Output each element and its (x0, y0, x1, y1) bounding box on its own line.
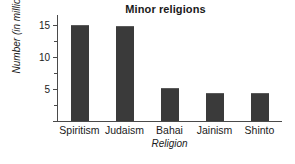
chart-title: Minor religions (0, 3, 295, 15)
x-axis-tick-label: Bahai (156, 124, 183, 136)
y-axis-line (57, 15, 58, 122)
bar (206, 93, 224, 121)
bar (161, 88, 179, 121)
bar-chart: Minor religions Number (in millions) 510… (0, 0, 295, 164)
plot-area: 51015 SpiritismJudaismBahaiJainismShinto (57, 15, 282, 121)
y-axis-tick-label: 5 (44, 83, 50, 94)
y-axis-tick-label: 15 (39, 19, 50, 30)
y-axis-tick-label: 10 (39, 51, 50, 62)
bar (251, 93, 269, 121)
y-axis-title: Number (in millions) (9, 0, 23, 79)
y-axis-minor-tick (54, 41, 57, 42)
y-axis-tick (53, 89, 58, 90)
x-axis-tick-label: Judaism (105, 124, 144, 136)
x-axis-tick-label: Shinto (245, 124, 275, 136)
y-axis-tick (53, 25, 58, 26)
y-axis-title-text: Number (in millions) (11, 0, 22, 73)
x-axis-title: Religion (57, 138, 282, 149)
x-axis-tick-label: Spiritism (59, 124, 99, 136)
x-axis-line (53, 121, 282, 122)
y-axis-minor-tick (54, 105, 57, 106)
bar (116, 26, 134, 121)
y-axis-minor-tick (54, 73, 57, 74)
y-axis-tick (53, 57, 58, 58)
x-axis-tick-label: Jainism (197, 124, 233, 136)
bar (71, 25, 89, 121)
